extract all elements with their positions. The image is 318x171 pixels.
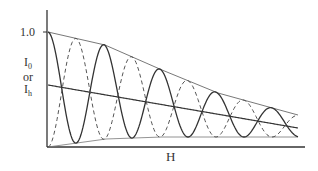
- pendellosung-plot: [0, 0, 318, 171]
- y-label-or: or: [19, 71, 37, 83]
- i0-curve-solid: [48, 32, 298, 143]
- y-axis-label: I0 or Ih: [19, 56, 37, 99]
- y-tick-label: 1.0: [20, 26, 35, 38]
- x-axis-label: H: [166, 150, 175, 163]
- mean-intensity-line: [48, 85, 298, 128]
- ih-curve-dashed: [48, 38, 298, 147]
- y-label-subh: h: [28, 90, 32, 99]
- lower-envelope: [48, 137, 298, 147]
